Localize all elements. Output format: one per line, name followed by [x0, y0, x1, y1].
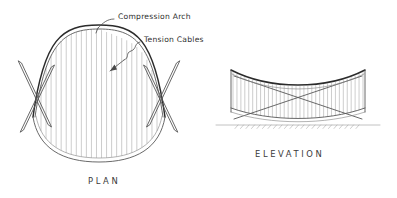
ground-hatch-tick [334, 125, 337, 129]
ground-hatch-tick [307, 125, 310, 129]
ground-hatch-tick [252, 125, 255, 129]
compression-arch-label: Compression Arch [118, 12, 191, 21]
elevation-ground-hatch [235, 125, 359, 129]
ground-hatch-tick [323, 125, 326, 129]
tension-cables-label: Tension Cables [143, 35, 204, 44]
ground-hatch-tick [301, 125, 304, 129]
ground-hatch-tick [329, 125, 332, 129]
ground-hatch-tick [241, 125, 244, 129]
plan-caption: PLAN [88, 176, 120, 186]
elevation-view-group [216, 70, 380, 129]
ground-hatch-tick [351, 125, 354, 129]
plan-arch-outer-bottom [33, 117, 165, 162]
plan-tension-cables [41, 30, 157, 158]
ground-hatch-tick [290, 125, 293, 129]
compression-arch-leader [98, 19, 114, 28]
plan-view-group [19, 25, 180, 162]
ground-hatch-tick [279, 125, 282, 129]
ground-hatch-tick [268, 125, 271, 129]
tension-cables-arrow-head [110, 65, 117, 72]
ground-hatch-tick [274, 125, 277, 129]
ground-hatch-tick [356, 125, 359, 129]
elevation-roof-curve-upper [231, 70, 365, 85]
sketch-canvas: Compression Arch Tension Cables PLAN ELE… [0, 0, 397, 198]
architectural-sketch-figure: Compression Arch Tension Cables PLAN ELE… [0, 0, 397, 198]
elevation-roof-curve-lower [232, 74, 364, 89]
ground-hatch-tick [246, 125, 249, 129]
ground-hatch-tick [345, 125, 348, 129]
elevation-caption: ELEVATION [255, 149, 324, 159]
ground-hatch-tick [235, 125, 238, 129]
ground-hatch-tick [257, 125, 260, 129]
ground-hatch-tick [318, 125, 321, 129]
ground-hatch-tick [340, 125, 343, 129]
ground-hatch-tick [296, 125, 299, 129]
ground-hatch-tick [312, 125, 315, 129]
ground-hatch-tick [263, 125, 266, 129]
ground-hatch-tick [285, 125, 288, 129]
